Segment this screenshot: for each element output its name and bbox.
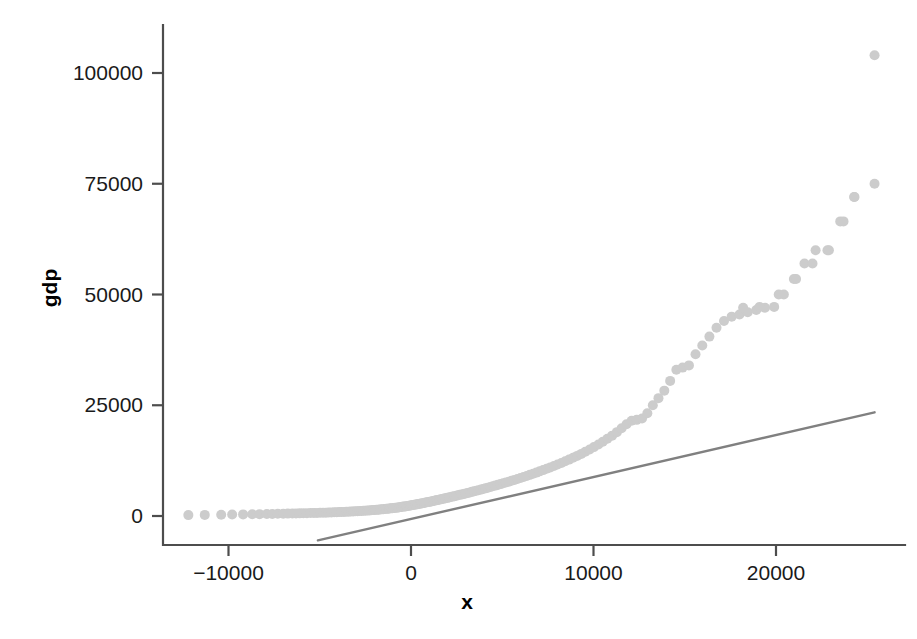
y-tick-label: 100000: [73, 61, 143, 84]
x-tick-label: −10000: [193, 561, 264, 584]
y-axis-ticks: 0250005000075000100000: [73, 61, 163, 527]
axis-spines: [163, 25, 905, 545]
y-tick-label: 25000: [85, 393, 143, 416]
data-point: [808, 258, 818, 268]
y-tick-label: 75000: [85, 172, 143, 195]
data-point: [697, 340, 707, 350]
scatter-plot-canvas: −1000001000020000 0250005000075000100000…: [0, 0, 917, 639]
data-point: [839, 216, 849, 226]
data-point: [238, 509, 248, 519]
data-point: [824, 245, 834, 255]
fitted-regression-line: [318, 412, 875, 540]
data-point: [684, 360, 694, 370]
data-point: [755, 302, 765, 312]
data-point: [769, 302, 779, 312]
data-point: [704, 332, 714, 342]
data-point: [738, 303, 748, 313]
data-point: [227, 510, 237, 520]
chart-figure: −1000001000020000 0250005000075000100000…: [0, 0, 917, 639]
data-point: [870, 179, 880, 189]
data-point: [791, 274, 801, 284]
data-point: [712, 323, 722, 333]
x-tick-label: 20000: [747, 561, 805, 584]
fitted-line-layer: [318, 412, 875, 540]
data-points-layer: [183, 50, 879, 520]
x-tick-label: 0: [405, 561, 417, 584]
data-point: [691, 349, 701, 359]
data-point: [774, 290, 784, 300]
x-axis-title: x: [461, 590, 473, 613]
y-tick-label: 50000: [85, 283, 143, 306]
data-point: [665, 376, 675, 386]
data-point: [183, 510, 193, 520]
data-point: [659, 386, 669, 396]
data-point: [811, 245, 821, 255]
y-tick-label: 0: [131, 504, 143, 527]
y-axis-title: gdp: [38, 269, 61, 307]
data-point: [216, 510, 226, 520]
x-tick-label: 10000: [564, 561, 622, 584]
data-point: [870, 50, 880, 60]
data-point: [849, 192, 859, 202]
data-point: [200, 510, 210, 520]
x-axis-ticks: −1000001000020000: [193, 545, 805, 584]
